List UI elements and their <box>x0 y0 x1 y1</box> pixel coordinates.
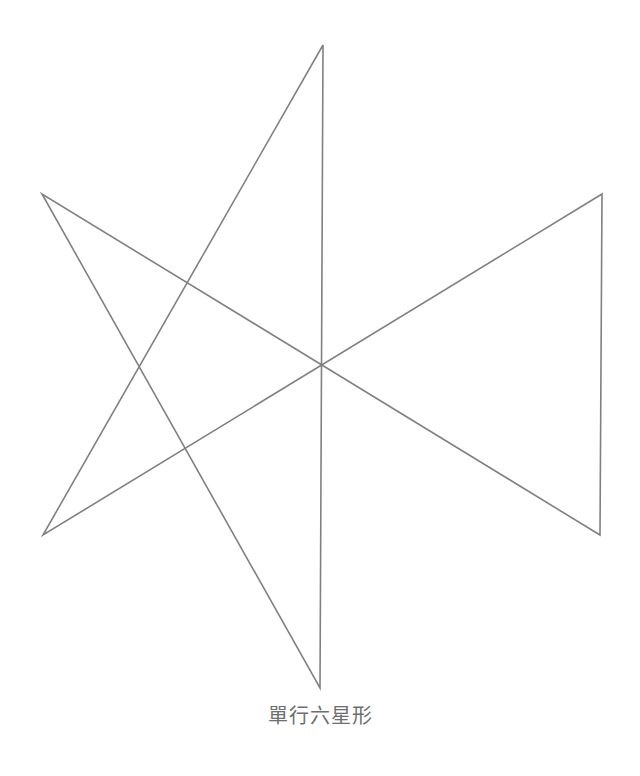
unicursal-hexagram-path <box>42 45 602 688</box>
unicursal-hexagram-figure <box>0 0 640 776</box>
figure-caption: 單行六星形 <box>0 703 640 729</box>
figure-panel: 單行六星形 <box>0 0 640 776</box>
